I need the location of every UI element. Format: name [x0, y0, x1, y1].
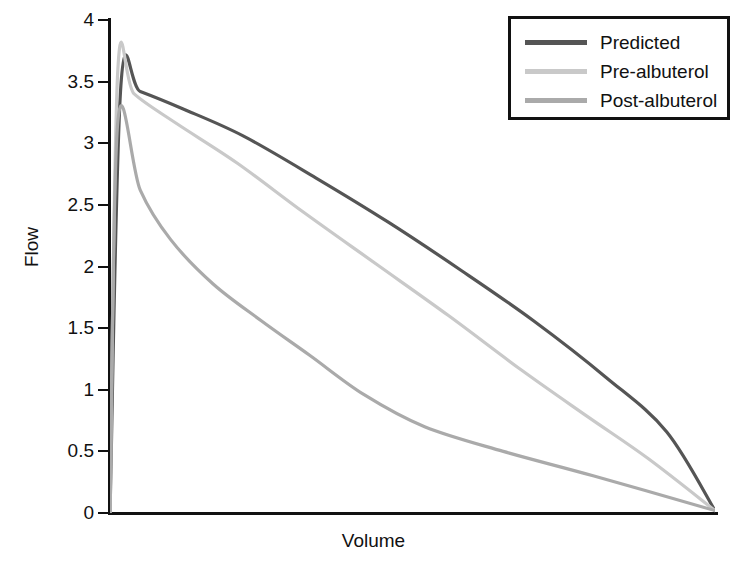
- y-axis-tick-label: 2.5: [38, 195, 94, 214]
- legend-item-post-albuterol: Post-albuterol: [511, 86, 727, 115]
- series-line-predicted: [110, 55, 715, 513]
- legend-label: Pre-albuterol: [600, 62, 709, 81]
- y-axis-tick-label: 1: [38, 380, 94, 399]
- series-line-post-albuterol: [110, 106, 715, 513]
- chart-legend: PredictedPre-albuterolPost-albuterol: [508, 16, 730, 120]
- x-axis-title: Volume: [0, 530, 747, 552]
- y-axis-tick-label: 3: [38, 133, 94, 152]
- y-axis-tick-label: 0: [38, 503, 94, 522]
- y-axis-tick-label: 3.5: [38, 72, 94, 91]
- chart-page: 00.511.522.533.54 Flow Volume PredictedP…: [0, 0, 747, 563]
- legend-label: Post-albuterol: [600, 91, 717, 110]
- y-axis-tick-label: 4: [38, 10, 94, 29]
- legend-swatch: [525, 98, 587, 103]
- legend-item-predicted: Predicted: [511, 28, 727, 57]
- legend-item-pre-albuterol: Pre-albuterol: [511, 57, 727, 86]
- y-axis-tick-label: 2: [38, 257, 94, 276]
- y-axis-tick-label: 0.5: [38, 441, 94, 460]
- legend-swatch: [525, 40, 587, 45]
- y-axis-tick-label: 1.5: [38, 318, 94, 337]
- legend-swatch: [525, 69, 587, 74]
- legend-label: Predicted: [600, 33, 680, 52]
- y-axis-title: Flow: [21, 207, 43, 287]
